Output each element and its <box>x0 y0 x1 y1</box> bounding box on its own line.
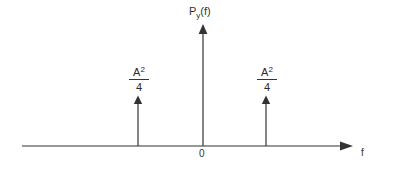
vertical-axis-arrowhead <box>199 24 208 34</box>
impulse-left-magnitude-label: A2 4 <box>126 64 152 94</box>
vertical-axis-label: Py(f) <box>189 6 211 20</box>
impulse-right-arrowhead <box>262 96 270 105</box>
impulse-right-magnitude-label: A2 4 <box>254 64 280 94</box>
impulse-left-numerator-exponent: 2 <box>140 65 144 74</box>
horizontal-axis-arrowhead <box>340 142 353 151</box>
impulse-left-arrowhead <box>134 96 142 105</box>
impulse-right-numerator: A2 <box>254 64 280 79</box>
spectrum-figure: Py(f) A2 4 A2 4 0 f <box>0 0 403 170</box>
horizontal-axis-label: f <box>361 148 364 158</box>
impulse-left-denominator: 4 <box>126 80 152 94</box>
origin-label: 0 <box>199 149 205 159</box>
impulse-right-denominator: 4 <box>254 80 280 94</box>
impulse-left-numerator: A2 <box>126 64 152 79</box>
vertical-axis-label-argument: (f) <box>200 5 210 17</box>
figure-canvas <box>0 0 403 170</box>
impulse-right-numerator-exponent: 2 <box>268 65 272 74</box>
